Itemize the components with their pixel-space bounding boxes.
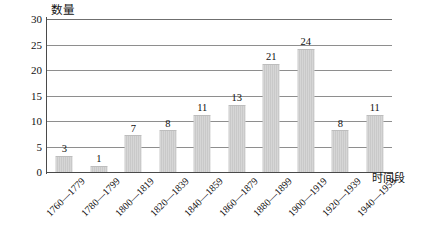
x-axis-title: 时间段 (372, 172, 405, 184)
x-axis-tick-labels: 1760—17791780—17991800—18191820—18391840… (0, 0, 426, 229)
bar-chart: 数量 051015202530 317811132124811 1760—177… (0, 0, 426, 229)
